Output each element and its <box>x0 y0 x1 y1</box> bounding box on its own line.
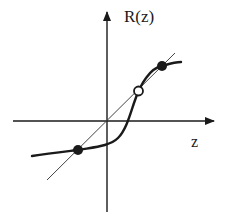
fixed-point-middle <box>134 87 143 96</box>
fixed-point-upper <box>157 61 167 71</box>
fixed-point-diagram <box>0 0 226 223</box>
x-axis-label: z <box>191 133 198 151</box>
y-axis-label: R(z) <box>124 7 154 27</box>
identity-line <box>47 53 175 180</box>
fixed-point-lower <box>73 145 83 155</box>
